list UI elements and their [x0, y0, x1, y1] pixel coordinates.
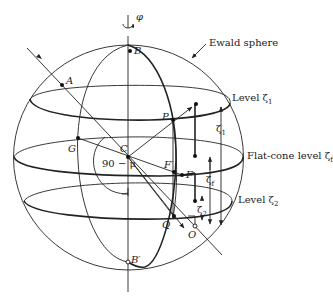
angle-label: 90 − μ — [102, 158, 136, 169]
ewald-sphere-diagram: φ A B — [0, 0, 333, 302]
lattice-point-2 — [193, 154, 197, 158]
point-Fprime — [172, 170, 176, 174]
label-P: P — [161, 111, 169, 122]
flatcone-label: Flat-cone level ζf — [247, 150, 333, 164]
label-F: F — [185, 169, 194, 180]
lattice-point-3 — [193, 199, 197, 203]
label-A: A — [65, 75, 73, 86]
sphere-label: Ewald sphere — [209, 37, 278, 48]
point-O — [193, 224, 197, 228]
point-A — [60, 83, 64, 87]
level1-circle-back — [30, 85, 230, 103]
label-Q: Q — [162, 219, 170, 230]
point-Q — [172, 214, 176, 218]
label-Bprime: B′ — [130, 254, 141, 265]
point-Bprime — [126, 260, 130, 264]
label-G: G — [68, 143, 76, 154]
meridian-circle-front — [128, 45, 176, 267]
label-Fprime: F′ — [163, 159, 174, 170]
sphere-label-pointer — [192, 44, 206, 58]
rotation-label: φ — [136, 11, 143, 22]
lattice-point-1 — [194, 102, 198, 106]
point-G — [76, 136, 80, 140]
point-P — [171, 118, 175, 122]
label-C: C — [120, 143, 128, 154]
point-F — [180, 173, 184, 177]
zetaf-dim-label: ζf — [206, 174, 215, 188]
label-O: O — [188, 229, 196, 240]
label-B: B — [133, 45, 141, 56]
level2-label: Level ζ2 — [238, 194, 278, 208]
flatcone-circle-back — [14, 137, 243, 157]
ray-cp — [128, 107, 192, 157]
level1-circle-front — [30, 99, 230, 120]
level1-label: Level ζ1 — [232, 92, 272, 106]
point-B — [128, 49, 132, 53]
zeta1-dim-label: ζ1 — [216, 123, 226, 137]
